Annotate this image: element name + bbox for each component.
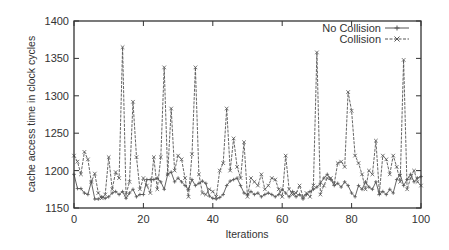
plus-marker-icon (267, 191, 271, 195)
x-tick-label: 40 (207, 213, 219, 225)
legend-label-collision: Collision (339, 33, 381, 45)
x-marker-icon (208, 188, 212, 192)
x-marker-icon (381, 154, 385, 158)
series-collision (72, 45, 423, 200)
x-marker-icon (322, 184, 326, 188)
y-tick-label: 1400 (45, 15, 69, 27)
plus-marker-icon (402, 184, 406, 188)
x-marker-icon (263, 188, 267, 192)
x-tick-label: 20 (137, 213, 149, 225)
x-marker-icon (211, 190, 215, 194)
x-marker-icon (204, 193, 208, 197)
legend: No Collision Collision (322, 22, 409, 45)
x-axis: 020406080100 (71, 21, 430, 225)
x-tick-label: 100 (412, 213, 430, 225)
x-marker-icon (256, 184, 260, 188)
plus-marker-icon (395, 26, 400, 31)
plus-marker-icon (374, 180, 378, 184)
plus-marker-icon (190, 178, 194, 182)
plus-marker-icon (142, 193, 146, 197)
plus-marker-icon (93, 197, 97, 201)
x-marker-icon (267, 184, 271, 188)
y-tick-label: 1300 (45, 90, 69, 102)
x-marker-icon (270, 176, 274, 180)
x-marker-icon (93, 172, 97, 176)
x-marker-icon (76, 160, 80, 164)
plus-marker-icon (103, 196, 107, 200)
series-line (74, 47, 421, 198)
y-tick-label: 1200 (45, 165, 69, 177)
x-tick-label: 0 (71, 213, 77, 225)
plus-marker-icon (242, 191, 246, 195)
plus-marker-icon (235, 176, 239, 180)
x-tick-label: 60 (276, 213, 288, 225)
plus-marker-icon (152, 178, 156, 182)
y-tick-label: 1150 (45, 202, 69, 214)
plus-marker-icon (86, 193, 90, 197)
x-marker-icon (149, 191, 153, 195)
plus-marker-icon (145, 178, 149, 182)
x-axis-title: Iterations (225, 228, 268, 240)
y-tick-label: 1250 (45, 127, 69, 139)
x-marker-icon (83, 150, 87, 154)
series-layer (72, 45, 423, 200)
line-chart: 115012001250130013501400 020406080100 It… (0, 0, 449, 250)
x-marker-icon (253, 180, 257, 184)
y-tick-label: 1350 (45, 52, 69, 64)
x-marker-icon (117, 176, 121, 180)
plus-marker-icon (76, 187, 80, 191)
x-tick-label: 80 (345, 213, 357, 225)
y-axis-title: cache access time in clock cycles (25, 36, 37, 192)
legend-item-collision: Collision (339, 33, 409, 45)
x-marker-icon (249, 176, 253, 180)
plus-marker-icon (232, 178, 236, 182)
x-marker-icon (371, 173, 375, 177)
x-marker-icon (294, 191, 298, 195)
x-marker-icon (339, 160, 343, 164)
plus-marker-icon (239, 184, 243, 188)
plus-marker-icon (162, 188, 166, 192)
x-marker-icon (280, 195, 284, 199)
x-marker-icon (412, 169, 416, 173)
